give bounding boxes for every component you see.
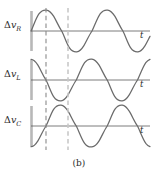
panel-1-t-label: t [140,30,144,40]
panel-delta-vR: ΔvR t [4,10,150,52]
panel-3-axis-label: ΔvC [4,114,21,128]
waveform-plot-svg: ΔvR t ΔvL t ΔvC t (b) [0,0,158,172]
figure-caption: (b) [73,158,86,168]
panel-2-axis-label: ΔvL [4,68,21,82]
waveform-figure: ΔvR t ΔvL t ΔvC t (b) [0,0,158,172]
panel-2-subscript: L [15,74,20,82]
panel-3-t-label: t [140,125,144,135]
panel-1-subscript: R [15,25,21,33]
panel-2-t-label: t [140,79,144,89]
panel-delta-vC: ΔvC t [4,105,150,147]
panel-1-axis-label: ΔvR [4,19,21,33]
panel-3-subscript: C [16,120,21,128]
panel-delta-vL: ΔvL t [4,59,150,101]
